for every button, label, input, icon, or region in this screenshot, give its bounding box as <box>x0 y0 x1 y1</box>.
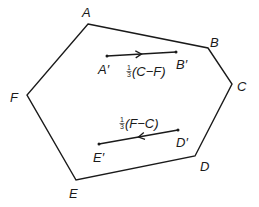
fraction-numerator: 1 <box>127 64 131 71</box>
fraction-denominator: 3 <box>120 123 124 130</box>
hexagon-diagram: ABCDEF A′B′13(C−F)D′E′13(F−C) <box>0 0 259 207</box>
fraction-denominator: 3 <box>127 71 131 78</box>
vectors: A′B′13(C−F)D′E′13(F−C) <box>93 51 188 166</box>
vertex-labels: ABCDEF <box>10 5 247 201</box>
endpoint-dot <box>106 55 109 58</box>
endpoint-dot <box>175 51 178 54</box>
endpoint-dot <box>177 129 180 132</box>
point-label: E′ <box>93 150 105 165</box>
vertex-label-b: B <box>210 35 219 50</box>
hexagon-outline <box>27 24 232 180</box>
vertex-label-f: F <box>10 90 19 105</box>
vertex-label-c: C <box>237 79 247 94</box>
vector-expression: (F−C) <box>125 116 159 131</box>
point-label: A′ <box>97 62 110 77</box>
lower-vector: D′E′13(F−C) <box>93 116 188 165</box>
upper-vector: A′B′13(C−F) <box>97 51 188 80</box>
vertex-label-e: E <box>69 186 78 201</box>
fraction-numerator: 1 <box>120 116 124 123</box>
vector-expression: (C−F) <box>132 64 166 79</box>
vertex-label-d: D <box>200 159 209 174</box>
vertex-label-a: A <box>81 5 91 20</box>
point-label: D′ <box>176 135 188 150</box>
endpoint-dot <box>98 143 101 146</box>
point-label: B′ <box>176 57 188 72</box>
